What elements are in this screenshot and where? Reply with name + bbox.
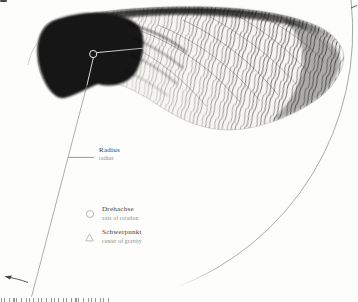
axis-label: Drehachse (102, 206, 139, 213)
radius-leader-line (32, 85, 88, 297)
gravity-label-block: Schwerpunkt center of gravity (102, 229, 142, 244)
gravity-label: Schwerpunkt (102, 229, 142, 236)
radius-sublabel: radius (99, 156, 120, 162)
radius-label: Radius (99, 147, 120, 154)
radius-label-block: Radius radius (99, 147, 120, 162)
samara-wing (37, 7, 344, 130)
cropped-caption-fragment (1, 298, 111, 302)
axis-sublabel: axis of rotation (102, 216, 139, 222)
samara-diagram-figure (0, 0, 358, 302)
bottom-left-arrow-icon (5, 275, 29, 282)
left-arc-fragment (28, 42, 38, 65)
legend-circle-icon (86, 210, 94, 218)
legend-triangle-icon (85, 233, 94, 242)
axis-label-block: Drehachse axis of rotation (102, 206, 139, 221)
gravity-sublabel: center of gravity (102, 239, 142, 245)
book-page: Radius radius Drehachse axis of rotation… (0, 0, 358, 302)
